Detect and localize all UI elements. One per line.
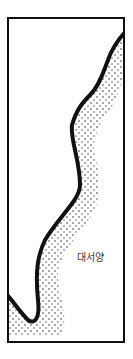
- stipple-band: [8, 32, 125, 335]
- ocean-label: 대서양: [77, 249, 104, 264]
- coastline-map: [0, 0, 133, 359]
